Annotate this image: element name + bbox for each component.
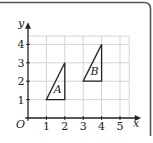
y-axis-arrow-icon: [25, 22, 31, 28]
x-tick-label: 3: [80, 120, 87, 133]
y-tick-label: 3: [18, 57, 25, 70]
y-tick-label: 1: [18, 94, 25, 107]
triangle-label-a: A: [53, 83, 62, 96]
triangles: AB: [46, 44, 101, 99]
x-tick-label: 1: [43, 120, 50, 133]
y-axis-label: y: [17, 17, 25, 30]
tick-labels: 123451234: [18, 38, 124, 133]
x-tick-label: 5: [117, 120, 124, 133]
figure-frame: 123451234 AB x y O: [0, 0, 153, 143]
triangle-label-b: B: [90, 65, 99, 78]
coordinate-grid-figure: 123451234 AB x y O: [0, 0, 153, 143]
x-axis-label: x: [133, 117, 140, 130]
x-tick-label: 4: [98, 120, 105, 133]
y-tick-label: 2: [18, 75, 25, 88]
origin-label: O: [16, 118, 25, 131]
y-tick-label: 4: [18, 38, 25, 51]
x-tick-label: 2: [61, 120, 68, 133]
grid-lines: [28, 36, 129, 118]
